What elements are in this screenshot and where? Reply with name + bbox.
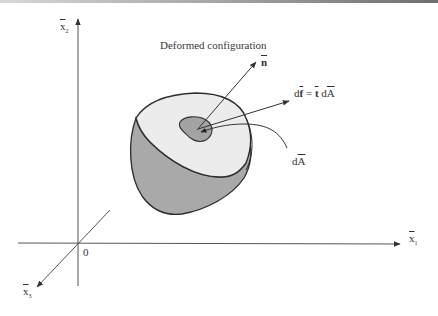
diagram-title: Deformed configuration	[160, 39, 267, 51]
force-A: A	[327, 87, 335, 99]
x1-axis-label: x1	[409, 232, 418, 246]
x3-axis-label: x3	[23, 285, 32, 299]
x1-subscript: 1	[415, 240, 418, 246]
normal-vector-label: n	[261, 56, 267, 68]
x3-axis	[37, 210, 110, 287]
x3-subscript: 3	[29, 293, 32, 299]
force-equals: =	[303, 87, 315, 99]
x2-subscript: 2	[66, 28, 69, 34]
origin-label: 0	[83, 246, 89, 258]
force-vector-label: df = t dA	[294, 87, 335, 99]
x1-axis	[18, 243, 400, 244]
x2-axis-label: x2	[60, 20, 69, 34]
area-element-label: dA	[292, 155, 305, 167]
deformed-configuration-diagram: x2 x1 x3 0 Deformed configuration n df =…	[0, 0, 438, 316]
force-d2: d	[319, 87, 327, 99]
normal-symbol: n	[261, 56, 267, 68]
area-A: A	[298, 155, 306, 167]
